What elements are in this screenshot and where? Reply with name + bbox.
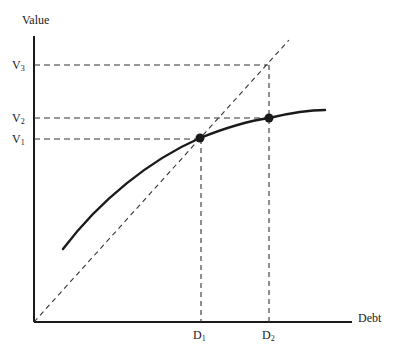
point-d2-v2: [265, 114, 274, 123]
y-axis-label: Value: [22, 14, 49, 26]
tick-d1: D1: [193, 329, 206, 343]
tick-d2: D2: [262, 329, 275, 343]
diagonal-line: [34, 40, 289, 322]
tick-v2: V2: [12, 112, 25, 126]
point-d1-v1: [196, 134, 205, 143]
value-curve: [63, 110, 325, 249]
tick-v1: V1: [12, 133, 25, 147]
x-axis-label: Debt: [358, 312, 381, 324]
diagram-canvas: [0, 0, 407, 355]
tick-v3: V3: [12, 59, 25, 73]
